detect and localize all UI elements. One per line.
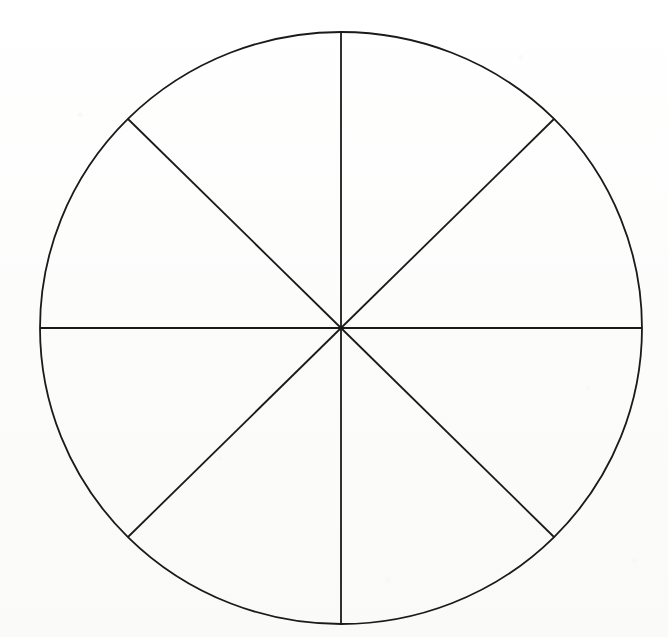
worksheet-canvas: [0, 0, 668, 637]
spoke-lower-right: [341, 328, 554, 537]
center-point: [340, 327, 343, 330]
spoke-upper-right: [341, 119, 554, 328]
spoke-upper-left: [128, 119, 341, 328]
fraction-circle-figure: [0, 0, 668, 637]
spoke-lower-left: [128, 328, 341, 537]
